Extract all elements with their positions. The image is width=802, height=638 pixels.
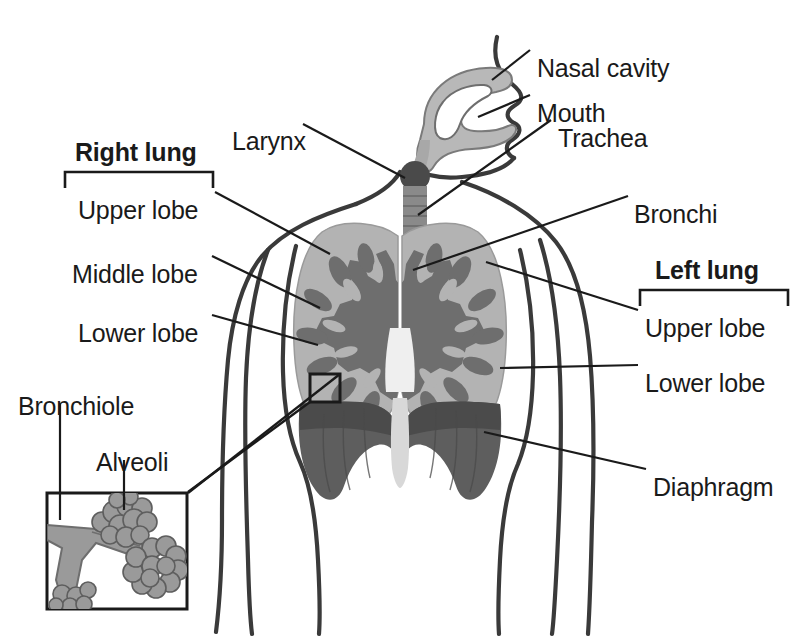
label-left-lower-lobe: Lower lobe	[645, 371, 765, 396]
label-right-lower-lobe: Lower lobe	[78, 321, 198, 346]
group-label-left-lung: Left lung	[655, 258, 759, 283]
leader-mouth	[478, 95, 530, 117]
mediastinum	[385, 328, 415, 392]
respiratory-system-diagram: Right lung Left lung Nasal cavity Mouth …	[0, 0, 802, 638]
label-alveoli: Alveoli	[96, 450, 168, 475]
bracket-right-lung	[65, 172, 213, 188]
leader-left-lower-lobe	[500, 365, 638, 368]
label-right-middle-lobe: Middle lobe	[72, 262, 198, 287]
leader-larynx	[303, 124, 405, 178]
label-right-upper-lobe: Upper lobe	[78, 198, 198, 223]
label-diaphragm: Diaphragm	[653, 475, 773, 500]
label-bronchi: Bronchi	[634, 202, 717, 227]
label-nasal-cavity: Nasal cavity	[537, 56, 669, 81]
leader-diaphragm	[484, 432, 646, 469]
label-left-upper-lobe: Upper lobe	[645, 316, 765, 341]
label-mouth: Mouth	[537, 101, 605, 126]
bracket-left-lung	[640, 290, 788, 306]
label-larynx: Larynx	[232, 129, 306, 154]
leader-left-upper-lobe	[486, 262, 638, 310]
label-bronchiole: Bronchiole	[18, 394, 134, 419]
diaphragm-structure	[299, 398, 501, 500]
label-trachea: Trachea	[558, 126, 647, 151]
group-label-right-lung: Right lung	[75, 140, 197, 165]
alveoli-inset	[47, 489, 188, 614]
